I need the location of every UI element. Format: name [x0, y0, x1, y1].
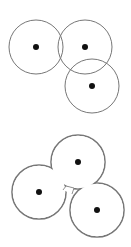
dot-5: [75, 159, 81, 165]
top-center-dots: [33, 44, 95, 89]
overlapping-circles-figure: [9, 20, 119, 113]
dot-4: [36, 189, 42, 195]
dot-3: [89, 83, 95, 89]
dot-6: [94, 207, 100, 213]
dot-2: [82, 44, 88, 50]
union-outline-figure: [12, 135, 124, 237]
circle-diagram: [0, 0, 131, 247]
dot-1: [33, 44, 39, 50]
